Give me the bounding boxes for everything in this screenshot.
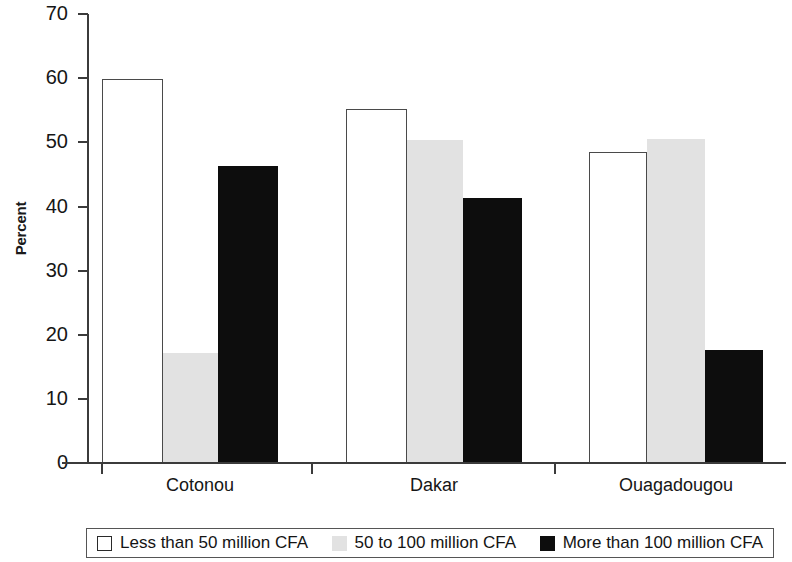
x-tick-label-dakar: Dakar — [410, 474, 458, 496]
x-tick-label-cotonou: Cotonou — [166, 474, 234, 496]
legend-item-less-than-50: Less than 50 million CFA — [97, 534, 308, 552]
bar-dakar-less-than-50 — [346, 109, 407, 463]
y-tick-40 — [78, 206, 88, 208]
y-tick-20 — [78, 334, 88, 336]
legend-item-50-to-100: 50 to 100 million CFA — [332, 534, 517, 552]
legend-label-less-than-50: Less than 50 million CFA — [120, 534, 308, 552]
x-tick-boundary-1 — [311, 464, 313, 474]
legend-label-more-than-100: More than 100 million CFA — [563, 534, 763, 552]
chart-legend: Less than 50 million CFA 50 to 100 milli… — [86, 528, 774, 558]
bar-cotonou-more-than-100 — [218, 166, 278, 463]
y-tick-70 — [78, 13, 88, 15]
y-tick-label-30: 30 — [2, 260, 68, 280]
y-tick-label-50: 50 — [2, 131, 68, 151]
bar-ouagadougou-more-than-100 — [705, 350, 763, 463]
legend-swatch-black-icon — [540, 536, 555, 551]
legend-swatch-white-icon — [97, 536, 112, 551]
legend-label-50-to-100: 50 to 100 million CFA — [355, 534, 517, 552]
y-tick-label-10: 10 — [2, 388, 68, 408]
y-tick-label-70: 70 — [2, 3, 68, 23]
x-tick-label-ouagadougou: Ouagadougou — [619, 474, 733, 496]
y-tick-label-0: 0 — [2, 452, 68, 472]
bar-cotonou-less-than-50 — [102, 79, 163, 463]
y-tick-30 — [78, 270, 88, 272]
y-tick-50 — [78, 141, 88, 143]
y-tick-label-60: 60 — [2, 67, 68, 87]
bar-ouagadougou-50-to-100 — [647, 139, 705, 463]
y-tick-10 — [78, 398, 88, 400]
bar-ouagadougou-less-than-50 — [589, 152, 647, 463]
bar-dakar-more-than-100 — [463, 198, 522, 463]
y-tick-60 — [78, 77, 88, 79]
legend-swatch-gray-icon — [332, 536, 347, 551]
y-axis-line — [87, 14, 89, 464]
legend-item-more-than-100: More than 100 million CFA — [540, 534, 763, 552]
y-tick-label-20: 20 — [2, 324, 68, 344]
x-tick-boundary-0 — [101, 464, 103, 474]
x-tick-boundary-2 — [554, 464, 556, 474]
bar-dakar-50-to-100 — [407, 140, 463, 463]
x-axis-line — [62, 462, 786, 464]
y-tick-label-40: 40 — [2, 196, 68, 216]
bar-cotonou-50-to-100 — [163, 353, 218, 463]
bar-chart-figure: Percent 70 60 50 40 30 20 10 0 Cotonou D… — [0, 0, 792, 562]
